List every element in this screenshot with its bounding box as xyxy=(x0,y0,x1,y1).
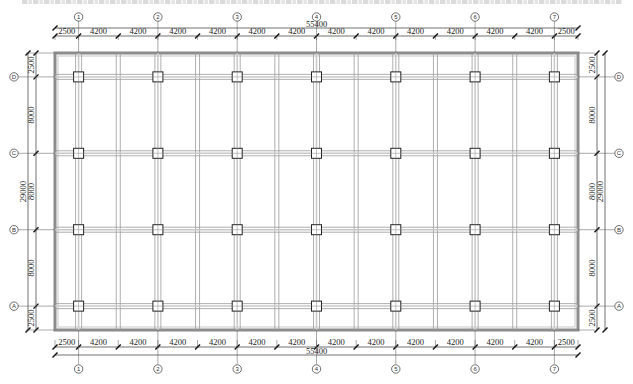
dimension-label: 2500 xyxy=(58,26,75,36)
left-dimension-chain: 2500800080008000250029000 xyxy=(18,51,55,333)
axis-label: D xyxy=(12,74,17,80)
dimension-label: 8000 xyxy=(26,107,36,124)
dimension-label: 4200 xyxy=(367,337,384,347)
dimension-label: 4200 xyxy=(486,337,503,347)
dimension-label: 4200 xyxy=(526,26,543,36)
dimension-label: 4200 xyxy=(407,337,424,347)
dimension-label: 4200 xyxy=(90,337,107,347)
dimension-label: 4200 xyxy=(169,337,186,347)
dimension-label: 4200 xyxy=(209,26,226,36)
dimension-label: 4200 xyxy=(447,337,464,347)
dimension-label: 2500 xyxy=(587,310,597,327)
dimension-label: 4200 xyxy=(407,26,424,36)
dimension-label: 4200 xyxy=(288,26,305,36)
dimension-label: 2500 xyxy=(26,56,36,73)
dimension-label: 2500 xyxy=(587,56,597,73)
floor-grid-plan: 2500420042004200420042004200420042004200… xyxy=(0,0,633,384)
dimension-label: 4200 xyxy=(209,337,226,347)
dimension-label: 4200 xyxy=(526,337,543,347)
dimension-label: 4200 xyxy=(486,26,503,36)
dimension-label: 4200 xyxy=(288,337,305,347)
dimension-label: 4200 xyxy=(447,26,464,36)
right-dimension-chain: 2500800080008000250029000 xyxy=(578,51,608,333)
axis-label: A xyxy=(12,303,16,309)
dimension-label: 4200 xyxy=(328,337,345,347)
dimension-label: 4200 xyxy=(328,26,345,36)
dimension-label: 8000 xyxy=(587,107,597,124)
dimension-label: 8000 xyxy=(587,259,597,276)
dimension-label: 2500 xyxy=(58,337,75,347)
dimension-label: 4200 xyxy=(130,337,147,347)
dimension-label: 4200 xyxy=(169,26,186,36)
axis-label: C xyxy=(12,150,17,156)
axis-label: A xyxy=(617,303,621,309)
beam-grid xyxy=(55,53,578,330)
dimension-label: 8000 xyxy=(26,259,36,276)
dimension-total-label: 29000 xyxy=(595,181,605,202)
dimension-label: 2500 xyxy=(558,337,575,347)
axis-label: B xyxy=(617,227,621,233)
dimension-label: 2500 xyxy=(26,310,36,327)
axis-label: C xyxy=(617,150,622,156)
dimension-total-label: 29000 xyxy=(18,181,28,202)
axis-label: B xyxy=(12,227,16,233)
dimension-label: 4200 xyxy=(90,26,107,36)
dimension-label: 2500 xyxy=(558,26,575,36)
axis-label: D xyxy=(617,74,622,80)
dimension-label: 4200 xyxy=(367,26,384,36)
dimension-label: 4200 xyxy=(249,337,266,347)
dimension-label: 4200 xyxy=(130,26,147,36)
dimension-label: 4200 xyxy=(249,26,266,36)
